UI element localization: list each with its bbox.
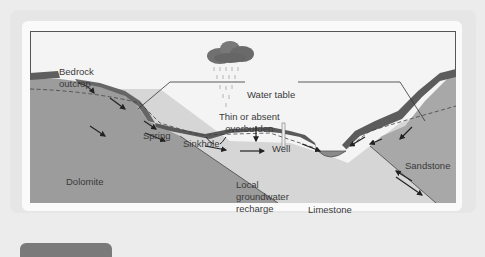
label-sandstone: Sandstone <box>405 161 450 171</box>
label-bedrock-outcrop: Bedrock outcrop <box>59 67 94 89</box>
label-limestone: Limestone <box>308 205 352 215</box>
label-water-table: Water table <box>247 90 295 100</box>
label-thin-overburden: Thin or absent overburden <box>219 112 280 134</box>
label-well: Well <box>272 144 290 154</box>
label-sinkhole: Sinkhole <box>183 139 219 149</box>
caption-tab <box>20 243 112 257</box>
label-local-groundwater-recharge: Local groundwater recharge <box>236 180 289 214</box>
label-dolomite: Dolomite <box>66 177 104 187</box>
label-spring: Spring <box>143 131 170 141</box>
